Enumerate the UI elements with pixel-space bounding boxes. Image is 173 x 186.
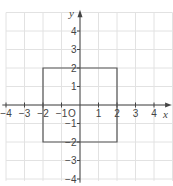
x-tick-label: 2 <box>114 108 120 119</box>
x-tick-label: −4 <box>0 108 12 119</box>
y-axis-label: y <box>68 7 74 19</box>
origin-label: O <box>68 108 76 119</box>
y-axis-arrow-icon <box>78 10 83 17</box>
y-tick-label: 1 <box>71 81 77 92</box>
x-axis-arrow-icon <box>165 103 171 108</box>
coordinate-plane: −4−3−2−112344321−1−2−3−4 x y O <box>0 0 173 186</box>
x-tick-label: −3 <box>19 108 31 119</box>
y-tick-label: −1 <box>65 118 77 129</box>
y-tick-label: 4 <box>71 26 77 37</box>
y-tick-label: −3 <box>65 155 77 166</box>
x-tick-label: 1 <box>96 108 102 119</box>
y-tick-label: 2 <box>71 63 77 74</box>
x-tick-label: −2 <box>37 108 49 119</box>
y-tick-label: −2 <box>65 137 77 148</box>
x-axis-label: x <box>162 108 168 120</box>
y-tick-label: −4 <box>65 174 77 185</box>
axes <box>2 10 171 183</box>
x-tick-label: 4 <box>151 108 157 119</box>
grid-lines <box>6 13 173 181</box>
x-tick-label: 3 <box>133 108 139 119</box>
y-tick-label: 3 <box>71 44 77 55</box>
